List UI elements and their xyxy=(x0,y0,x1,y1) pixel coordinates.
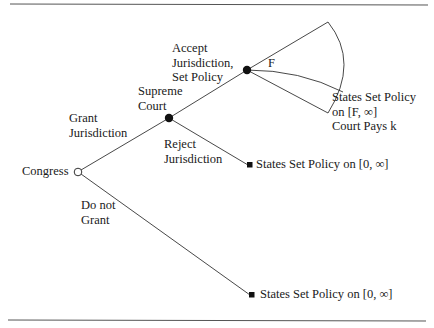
supreme-court-label: Supreme Court xyxy=(138,84,182,113)
game-tree-figure: Congress Supreme Court Grant Jurisdictio… xyxy=(0,0,434,328)
congress-label: Congress xyxy=(22,164,69,179)
do-not-grant-outcome-label: States Set Policy on [0, ∞] xyxy=(260,287,393,302)
supreme-court-node-icon xyxy=(165,114,173,122)
fan-upper-edge xyxy=(247,22,328,70)
reject-terminal-icon xyxy=(247,162,253,168)
fan-lower-edge xyxy=(247,70,328,113)
accept-node-icon xyxy=(243,66,251,74)
edge-do-not-grant xyxy=(81,174,250,295)
reject-jurisdiction-label: Reject Jurisdiction xyxy=(164,137,222,166)
accept-outcome-label: States Set Policy on [F, ∞] Court Pays k xyxy=(332,90,416,134)
fan-f-label: F xyxy=(268,56,275,71)
accept-jurisdiction-label: Accept Jurisdiction, Set Policy xyxy=(172,41,233,85)
do-not-grant-terminal-icon xyxy=(249,292,255,298)
top-rule xyxy=(10,4,428,5)
congress-node-icon xyxy=(74,168,82,176)
do-not-grant-label: Do not Grant xyxy=(81,198,115,227)
grant-jurisdiction-label: Grant Jurisdiction xyxy=(69,111,127,140)
fan-middle-curve xyxy=(247,70,343,92)
reject-outcome-label: States Set Policy on [0, ∞] xyxy=(256,157,389,172)
bottom-rule xyxy=(8,320,426,321)
